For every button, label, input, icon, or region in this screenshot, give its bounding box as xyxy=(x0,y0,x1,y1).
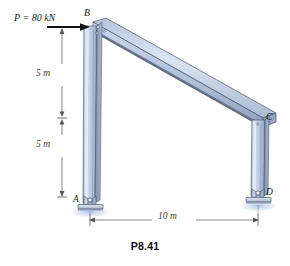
joint-C-connection xyxy=(257,123,259,125)
figure-p841: P = 80 kN B C D A 5 m 5 m 10 m P8.41 xyxy=(0,0,290,266)
member-BC-inclined-beam xyxy=(93,18,276,128)
member-AB-left-column xyxy=(83,22,102,203)
joint-label-C: C xyxy=(266,113,272,123)
joint-label-A: A xyxy=(73,195,79,205)
dimension-label-upper-5m: 5 m xyxy=(36,69,50,79)
frame-drawing xyxy=(0,0,290,266)
load-label-P: P = 80 kN xyxy=(14,13,55,23)
member-CD-right-column xyxy=(251,116,269,196)
joint-label-B: B xyxy=(84,9,90,19)
joint-label-D: D xyxy=(266,188,273,198)
load-arrow-P xyxy=(47,23,90,31)
dimension-vertical xyxy=(57,28,67,197)
dimension-label-lower-5m: 5 m xyxy=(36,140,50,150)
dimension-label-10m: 10 m xyxy=(158,212,177,222)
figure-caption: P8.41 xyxy=(0,240,290,252)
